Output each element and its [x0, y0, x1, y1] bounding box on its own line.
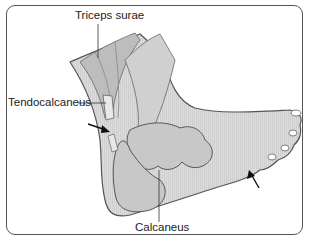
label-tendocalcaneus: Tendocalcaneus — [8, 96, 91, 108]
label-calcaneus: Calcaneus — [135, 221, 189, 233]
foot-illustration — [0, 0, 311, 241]
label-triceps-surae: Triceps surae — [75, 9, 144, 21]
